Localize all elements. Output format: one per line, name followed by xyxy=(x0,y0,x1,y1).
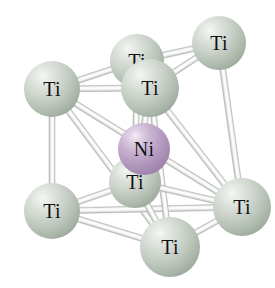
atom-ti-right[interactable]: Ti xyxy=(213,178,271,236)
atom-label: Ti xyxy=(140,237,200,257)
atom-ni-center[interactable]: Ni xyxy=(118,123,170,175)
atom-ti-upper-left[interactable]: Ti xyxy=(24,61,80,117)
atom-label: Ti xyxy=(109,172,161,192)
structure-figure: TiTiTiTiNiTiTiTiTi Ti Ni xyxy=(0,0,275,288)
atom-label: Ti xyxy=(192,33,246,53)
atom-label: Ti xyxy=(213,197,271,217)
atom-label: Ti xyxy=(24,79,80,99)
atom-label: Ni xyxy=(118,139,170,159)
atom-label: Ti xyxy=(121,78,179,98)
atom-ti-lower-left[interactable]: Ti xyxy=(24,183,80,239)
atom-ti-top-front[interactable]: Ti xyxy=(121,59,179,117)
atom-ti-bottom[interactable]: Ti xyxy=(140,217,200,277)
atom-label: Ti xyxy=(24,201,80,221)
atom-ti-top-right[interactable]: Ti xyxy=(192,16,246,70)
